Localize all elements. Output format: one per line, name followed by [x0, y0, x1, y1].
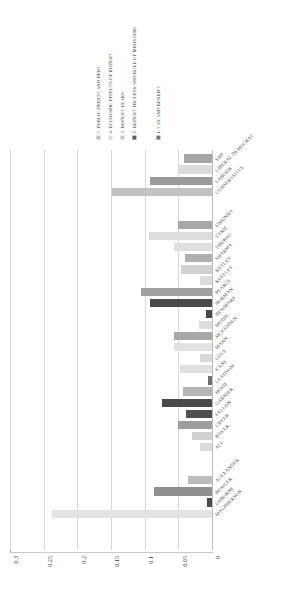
- bar-row: [10, 408, 212, 419]
- bar-row: [10, 320, 212, 331]
- bar-tyrie: [149, 232, 212, 240]
- bar-row: [10, 364, 212, 375]
- bar-row: [10, 486, 212, 497]
- bar-rutley: [181, 265, 212, 273]
- bar-row: [10, 308, 212, 319]
- bar-baker: [192, 432, 212, 440]
- legend-item-3: 2. BUDGET PROCESS AND ROLE OF MINISTERS: [132, 8, 138, 140]
- bar-fallon: [186, 410, 212, 418]
- legend-swatch-1: [109, 136, 113, 140]
- legend-swatch-3: [133, 136, 137, 140]
- legend-label-3: 2. BUDGET PROCESS AND ROLE OF MINISTERS: [132, 27, 138, 133]
- bar-pearce: [141, 288, 212, 296]
- legend-label-0: 5. PUBLIC DEFICIT AND DEBT: [96, 66, 102, 134]
- chart-legend: 5. PUBLIC DEFICIT AND DEBT 4. ECONOMIC E…: [100, 2, 192, 142]
- bar-row: [10, 242, 212, 253]
- bar-snp: [184, 154, 212, 162]
- bar-row: [10, 353, 212, 364]
- bar-ali: [200, 443, 212, 451]
- bar-hosie: [183, 387, 212, 395]
- bar-liberal-democrat: [178, 165, 212, 173]
- bar-row: [10, 442, 212, 453]
- bar-row: [10, 286, 212, 297]
- legend-item-1: 4. ECONOMIC EFFECTS OF BUDGET: [108, 53, 114, 140]
- legend-swatch-4: [157, 136, 161, 140]
- x-tick-0p15: 0.15: [113, 556, 120, 567]
- bar-row: [10, 431, 212, 442]
- bar-row: [10, 397, 212, 408]
- bar-row: [10, 153, 212, 164]
- legend-item-0: 5. PUBLIC DEFICIT AND DEBT: [96, 66, 102, 140]
- plot-area: [10, 150, 212, 550]
- bar-norman: [150, 299, 212, 307]
- bar-leadsom: [208, 376, 212, 384]
- bar-row: [10, 253, 212, 264]
- x-tick-0p1: 0.1: [147, 556, 154, 564]
- bar-garnier: [162, 399, 213, 407]
- bar-row: [10, 497, 212, 508]
- bar-bowler: [154, 487, 212, 495]
- legend-item-4: 1. TAX AND BENEFIT: [156, 87, 162, 140]
- bar-row: [10, 342, 212, 353]
- bar-kane: [180, 365, 212, 373]
- x-tick-0p2: 0.2: [80, 556, 87, 564]
- bar-labour: [150, 177, 212, 185]
- bar-row: [10, 508, 212, 519]
- x-axis-line: [10, 552, 213, 553]
- bar-newmark: [206, 310, 212, 318]
- bar-macpherson: [52, 510, 212, 518]
- bar-row: [10, 264, 212, 275]
- bar-mudie: [199, 321, 212, 329]
- bar-mann: [174, 343, 212, 351]
- x-tick-0p05: 0.05: [181, 556, 188, 567]
- bar-row: [10, 186, 212, 197]
- bar-row: [10, 386, 212, 397]
- bar-ruffley: [200, 276, 212, 284]
- bar-umunna: [178, 221, 212, 229]
- bar-row: [10, 164, 212, 175]
- bar-row: [10, 331, 212, 342]
- bar-row: [10, 475, 212, 486]
- gridline-0: [212, 150, 213, 550]
- legend-item-2: 3. BUDGET LEAKS: [120, 92, 126, 140]
- bar-row: [10, 375, 212, 386]
- bar-mcfadden: [174, 332, 212, 340]
- bar-cryer: [178, 421, 212, 429]
- bar-row: [10, 419, 212, 430]
- bar-row: [10, 275, 212, 286]
- bar-row: [10, 231, 212, 242]
- category-label-ali: ALI: [214, 441, 224, 451]
- x-tick-0: 0: [214, 556, 221, 559]
- bar-row: [10, 175, 212, 186]
- legend-swatch-2: [121, 136, 125, 140]
- bar-sharma: [185, 254, 212, 262]
- legend-label-4: 1. TAX AND BENEFIT: [156, 87, 162, 134]
- x-tick-0p3: 0.3: [12, 556, 19, 564]
- bar-row: [10, 220, 212, 231]
- chart-page: 5. PUBLIC DEFICIT AND DEBT 4. ECONOMIC E…: [0, 0, 297, 600]
- x-tick-0p25: 0.25: [46, 556, 53, 567]
- bar-alexander: [188, 476, 212, 484]
- bar-thurso: [174, 243, 212, 251]
- bar-osborne: [207, 498, 212, 506]
- legend-label-2: 3. BUDGET LEAKS: [120, 92, 126, 133]
- bar-row: [10, 297, 212, 308]
- bar-conservative: [112, 188, 212, 196]
- legend-label-1: 4. ECONOMIC EFFECTS OF BUDGET: [108, 53, 114, 134]
- legend-swatch-0: [97, 136, 101, 140]
- bar-love: [200, 354, 212, 362]
